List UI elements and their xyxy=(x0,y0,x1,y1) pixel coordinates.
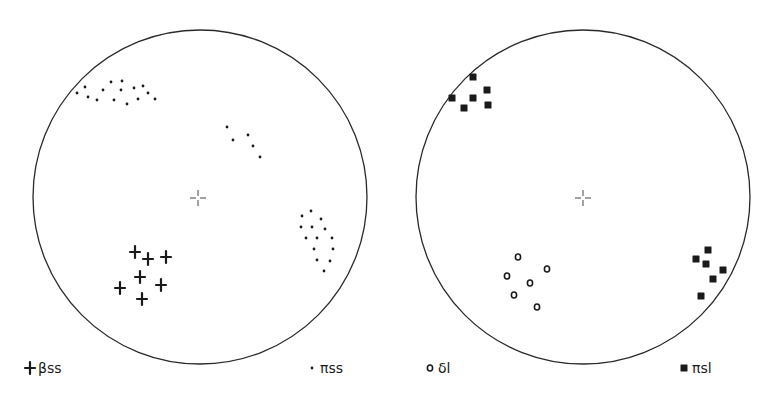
data-point xyxy=(305,237,308,240)
series-filled-square xyxy=(449,74,727,300)
data-point xyxy=(710,276,717,283)
data-point xyxy=(232,139,235,142)
data-point xyxy=(320,218,323,221)
data-point xyxy=(301,215,304,218)
data-point xyxy=(504,273,509,279)
data-point xyxy=(332,248,335,251)
data-point xyxy=(316,259,319,262)
square-legend-icon xyxy=(681,365,688,372)
data-point xyxy=(102,89,105,92)
data-point xyxy=(484,87,491,94)
data-point xyxy=(313,248,316,251)
legend-label: πsl xyxy=(692,360,712,376)
center-crosshair-icon xyxy=(575,190,591,206)
primitive-circle xyxy=(416,30,750,364)
data-point xyxy=(470,74,477,81)
data-point xyxy=(703,261,710,268)
dot-legend-icon xyxy=(311,367,314,370)
primitive-circle xyxy=(33,30,367,364)
data-point xyxy=(137,98,140,101)
data-point xyxy=(449,95,456,102)
legend-item: βss xyxy=(25,360,62,376)
data-point xyxy=(311,226,314,229)
data-point xyxy=(316,237,319,240)
data-point xyxy=(511,292,516,298)
data-point xyxy=(147,92,150,95)
series-open-circle xyxy=(504,254,549,310)
legend-item: δl xyxy=(427,360,450,376)
data-point xyxy=(137,293,147,305)
center-crosshair-icon xyxy=(190,190,206,206)
data-point xyxy=(544,266,549,272)
legend-item: πsl xyxy=(681,360,712,376)
data-point xyxy=(259,156,262,159)
data-point xyxy=(310,210,313,213)
data-point xyxy=(300,226,303,229)
data-point xyxy=(87,96,90,99)
data-point xyxy=(693,256,700,263)
data-point xyxy=(461,105,468,112)
legend-label: δl xyxy=(438,360,450,376)
data-point xyxy=(133,87,136,90)
data-point xyxy=(126,103,129,106)
data-point xyxy=(121,80,124,83)
stereonet-figure: βssπss δlπsl xyxy=(0,0,775,402)
legend-item: πss xyxy=(311,360,343,376)
data-point xyxy=(120,89,123,92)
data-point xyxy=(143,253,153,265)
series-dot xyxy=(76,80,335,273)
data-point xyxy=(252,145,255,148)
legend-label: βss xyxy=(38,360,62,376)
data-point xyxy=(115,282,125,294)
data-point xyxy=(113,99,116,102)
data-point xyxy=(135,271,145,283)
data-point xyxy=(96,99,99,102)
data-point xyxy=(705,247,712,254)
data-point xyxy=(515,254,520,260)
data-point xyxy=(110,81,113,84)
data-point xyxy=(720,267,727,274)
data-point xyxy=(485,102,492,109)
data-point xyxy=(323,270,326,273)
data-point xyxy=(226,126,229,129)
data-point xyxy=(247,134,250,137)
data-point xyxy=(534,304,539,310)
data-point xyxy=(76,92,79,95)
data-point xyxy=(161,251,171,263)
ring-legend-icon xyxy=(427,365,432,371)
data-point xyxy=(698,293,705,300)
cross-legend-icon xyxy=(25,362,35,374)
data-point xyxy=(527,280,532,286)
left-stereonet: βssπss xyxy=(25,30,367,376)
data-point xyxy=(470,95,477,102)
data-point xyxy=(142,85,145,88)
data-point xyxy=(156,279,166,291)
data-point xyxy=(130,246,140,258)
series-cross xyxy=(115,246,171,305)
right-stereonet: δlπsl xyxy=(416,30,750,376)
data-point xyxy=(84,86,87,89)
data-point xyxy=(331,237,334,240)
data-point xyxy=(324,228,327,231)
data-point xyxy=(154,98,157,101)
data-point xyxy=(329,260,332,263)
legend-label: πss xyxy=(320,360,343,376)
